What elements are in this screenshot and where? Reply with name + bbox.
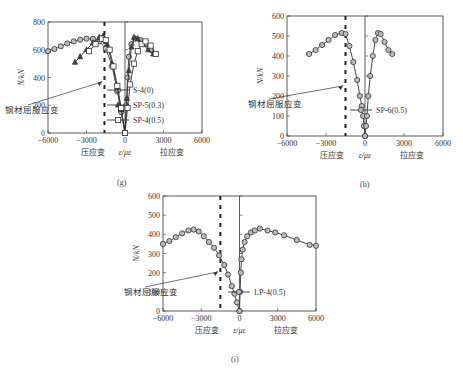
circle-marker [378,31,383,36]
circle-marker [313,243,318,248]
circle-marker [167,238,172,243]
legend-label: SP-6(0.5) [376,106,407,115]
circle-marker [307,51,312,56]
circle-marker [217,253,222,258]
circle-marker [326,37,331,42]
circle-marker [186,228,191,233]
triangle-marker [126,67,131,72]
circle-marker [160,241,165,246]
y-axis-label: N/kN [256,67,265,85]
x-label-tension: 拉应变 [400,150,424,160]
square-marker [93,42,98,47]
circle-marker [201,234,206,239]
square-marker [111,64,116,69]
annotation-arrow-line [28,82,101,105]
chart-i-svg: −6000−30000300060000100200300400500600N/… [120,180,350,340]
x-tick-label: 0 [123,136,127,145]
legend-label: LP-4(0.5) [254,288,286,297]
circle-marker [71,39,76,44]
y-tick-label: 500 [272,32,284,41]
panel-label-i: (i) [231,355,239,364]
x-label-compression: 压应变 [195,325,219,335]
circle-marker [347,43,352,48]
square-marker [143,39,148,44]
circle-marker [65,41,70,46]
y-tick-label: 300 [148,250,160,259]
circle-marker [58,44,63,49]
x-tick-label: 3000 [156,136,172,145]
circle-marker [242,239,247,244]
circle-marker [240,247,245,252]
square-marker [107,47,112,52]
x-tick-label: −3000 [316,139,337,148]
square-marker [128,82,133,87]
arrow-head-icon [339,85,344,90]
square-marker [131,61,136,66]
chart-g: −6000−30000300060000200400600800N/kNε/με… [0,0,235,169]
x-tick-label: 0 [363,139,367,148]
circle-marker [363,123,368,128]
chart-i: −6000−30000300060000100200300400500600N/… [120,180,350,344]
x-tick-label: −3000 [76,136,97,145]
circle-marker [333,32,338,37]
arrow-head-icon [97,81,102,86]
circle-marker [211,245,216,250]
arrow-head-icon [213,271,218,276]
circle-marker [236,289,241,294]
square-marker [122,130,127,135]
y-axis-label: N/kN [132,245,141,263]
circle-marker [357,93,362,98]
circle-marker [313,47,318,52]
circle-marker [362,133,367,138]
circle-marker [237,308,242,313]
x-tick-label: 6000 [435,139,451,148]
circle-marker [191,227,196,232]
circle-marker [257,226,262,231]
circle-marker [282,233,287,238]
circle-marker [196,229,201,234]
square-marker [125,105,130,110]
panel-label-h: (h) [360,180,369,189]
y-tick-label: 300 [272,72,284,81]
square-marker [86,49,91,54]
circle-marker [351,59,356,64]
square-marker [119,105,124,110]
x-axis-label: ε/με [233,326,246,335]
y-tick-label: 100 [272,112,284,121]
y-tick-label: 800 [33,18,45,27]
circle-marker [45,49,50,54]
circle-marker [382,39,387,44]
circle-marker [370,53,375,58]
circle-marker [234,300,239,305]
circle-marker [273,230,278,235]
square-marker [153,51,158,56]
circle-marker [206,239,211,244]
x-tick-label: −3000 [191,314,212,323]
x-tick-label: 6000 [308,314,324,323]
legend-label: S-4(0) [133,86,154,95]
x-tick-label: 3000 [396,139,412,148]
y-tick-label: 600 [272,12,284,21]
x-tick-label: 0 [238,314,242,323]
x-tick-label: 6000 [194,136,210,145]
y-tick-label: 600 [33,46,45,55]
circle-marker [366,93,371,98]
y-tick-label: 400 [148,230,160,239]
y-tick-label: 0 [41,129,45,138]
chart-h-svg: −6000−30000300060000100200300400500600N/… [240,0,463,165]
x-tick-label: 3000 [270,314,286,323]
circle-marker [125,75,130,80]
square-marker [135,49,140,54]
x-label-compression: 压应变 [81,147,105,157]
circle-marker [225,272,230,277]
circle-marker [252,228,257,233]
y-tick-label: 400 [33,74,45,83]
y-tick-label: 0 [280,132,284,141]
y-tick-label: 200 [148,269,160,278]
y-tick-label: 400 [272,52,284,61]
x-label-compression: 压应变 [320,150,344,160]
circle-marker [364,113,369,118]
circle-marker [238,270,243,275]
y-tick-label: 600 [148,192,160,201]
square-marker [103,37,108,42]
